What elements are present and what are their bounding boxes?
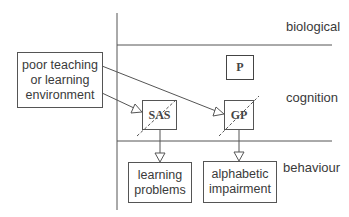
node-gp-label: GP xyxy=(231,108,248,123)
level-label-cognition: cognition xyxy=(286,90,338,105)
node-environment: poor teaching or learning environment xyxy=(17,52,103,108)
arrowhead-alphabetic-impairment xyxy=(234,152,244,161)
node-learning-problems: learning problems xyxy=(128,162,192,203)
node-sas-label: SAS xyxy=(148,108,170,123)
node-alphabetic-impairment-line1: alphabetic xyxy=(212,167,269,182)
node-learning-problems-line2: problems xyxy=(134,183,185,198)
arrowhead-learning-problems xyxy=(155,153,165,162)
node-environment-line1: poor teaching xyxy=(22,58,98,73)
node-p-label: P xyxy=(236,60,243,75)
node-learning-problems-line1: learning xyxy=(138,168,182,183)
arrowhead-gp xyxy=(213,107,224,116)
level-label-biological: biological xyxy=(286,19,340,34)
arrowhead-sas xyxy=(131,104,142,113)
node-environment-line3: environment xyxy=(26,88,95,103)
node-sas: SAS xyxy=(142,100,177,130)
node-alphabetic-impairment: alphabetic impairment xyxy=(203,161,277,203)
node-environment-line2: or learning xyxy=(30,73,89,88)
node-gp: GP xyxy=(224,100,254,130)
level-label-behaviour: behaviour xyxy=(283,160,340,175)
edge-environment-to-sas xyxy=(102,93,134,108)
node-p: P xyxy=(226,55,254,80)
node-alphabetic-impairment-line2: impairment xyxy=(209,182,271,197)
